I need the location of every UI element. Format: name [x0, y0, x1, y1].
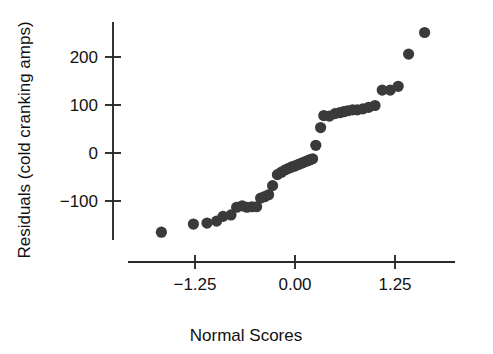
x-axis-group: −1.250.001.25: [128, 255, 455, 294]
y-tick-label: 100: [70, 96, 98, 115]
scatter-point: [419, 27, 430, 38]
x-tick-label: 0.00: [278, 275, 311, 294]
x-axis-title: Normal Scores: [190, 326, 302, 345]
normal-probability-plot: −1000100200 −1.250.001.25 Normal Scores …: [0, 0, 493, 354]
x-axis-tick-labels: −1.250.001.25: [173, 275, 411, 294]
y-tick-label: 200: [70, 48, 98, 67]
scatter-points-group: [156, 27, 430, 238]
y-tick-label: −100: [60, 192, 98, 211]
y-axis-title: Residuals (cold cranking amps): [15, 21, 34, 258]
scatter-point: [369, 100, 380, 111]
x-tick-label: 1.25: [378, 275, 411, 294]
scatter-point: [393, 81, 404, 92]
y-tick-label: 0: [89, 144, 98, 163]
y-axis-group: −1000100200: [60, 22, 121, 240]
y-axis-tick-labels: −1000100200: [60, 48, 98, 211]
scatter-point: [188, 218, 199, 229]
scatter-point: [156, 227, 167, 238]
scatter-point: [201, 217, 212, 228]
scatter-point: [315, 122, 326, 133]
x-tick-label: −1.25: [173, 275, 216, 294]
plot-canvas: −1000100200 −1.250.001.25 Normal Scores …: [0, 0, 493, 354]
scatter-point: [310, 140, 321, 151]
scatter-point: [267, 180, 278, 191]
scatter-point: [307, 153, 318, 164]
scatter-point: [403, 49, 414, 60]
